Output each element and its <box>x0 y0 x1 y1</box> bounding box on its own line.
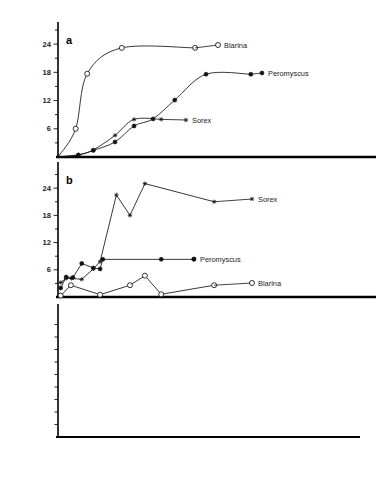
curve-blarina <box>61 276 214 296</box>
leader-line-sorex <box>214 199 252 202</box>
panel-a-series-peromyscus <box>58 72 253 157</box>
datapoint-sorex <box>143 181 147 185</box>
legend-marker-sorex <box>250 197 254 201</box>
panel-a-label-peromyscus: Peromyscus <box>251 69 309 78</box>
series-label-sorex: Sorex <box>258 195 278 204</box>
panel-b-y-tick-label: 12 <box>43 238 51 247</box>
curve-peromyscus <box>58 72 251 157</box>
datapoint-sorex <box>128 213 132 217</box>
panel-a-y-tick-label: 24 <box>43 40 52 49</box>
panel-b-label-blarina: Blarina <box>214 279 282 288</box>
panel-a-letter: a <box>66 34 73 46</box>
legend-marker-sorex <box>184 118 188 122</box>
datapoint-peromyscus <box>113 140 117 144</box>
datapoint-peromyscus <box>173 98 177 102</box>
datapoint-blarina <box>85 71 90 76</box>
panel-a-y-tick-label: 12 <box>43 96 51 105</box>
leader-line-blarina <box>214 283 252 285</box>
datapoint-peromyscus <box>101 257 105 261</box>
series-label-sorex: Sorex <box>192 116 212 125</box>
curve-sorex <box>61 184 214 283</box>
series-label-peromyscus: Peromyscus <box>200 255 241 264</box>
legend-marker-peromyscus <box>260 71 264 75</box>
series-label-peromyscus: Peromyscus <box>268 69 309 78</box>
datapoint-peromyscus <box>91 266 95 270</box>
panel-a-series-sorex <box>58 117 163 157</box>
datapoint-sorex <box>114 193 118 197</box>
datapoint-sorex <box>76 152 80 156</box>
panel-a-y-tick-label: 18 <box>43 68 51 77</box>
panel-a-y-tick-label: 6 <box>47 124 51 133</box>
panel-b-y-tick-label: 24 <box>43 184 52 193</box>
series-label-blarina: Blarina <box>224 41 248 50</box>
legend-marker-blarina <box>250 281 255 286</box>
datapoint-peromyscus <box>132 124 136 128</box>
datapoint-blarina <box>68 283 73 288</box>
datapoint-blarina <box>58 293 63 298</box>
panel-b-series-blarina <box>58 273 216 298</box>
datapoint-blarina <box>73 126 78 131</box>
datapoint-blarina <box>142 273 147 278</box>
datapoint-peromyscus <box>64 275 68 279</box>
datapoint-peromyscus <box>80 261 84 265</box>
datapoint-blarina <box>127 283 132 288</box>
panel-b-y-tick-label: 6 <box>47 265 51 274</box>
datapoint-peromyscus <box>59 286 63 290</box>
legend-marker-blarina <box>216 43 221 48</box>
leader-line-blarina <box>195 45 218 48</box>
panel-b-y-tick-label: 18 <box>43 211 51 220</box>
series-label-blarina: Blarina <box>258 279 282 288</box>
datapoint-peromyscus <box>204 72 208 76</box>
datapoint-sorex <box>113 133 117 137</box>
panel-c <box>55 304 361 437</box>
datapoint-peromyscus <box>98 267 102 271</box>
panel-a-label-sorex: Sorex <box>161 116 211 125</box>
datapoint-blarina <box>98 292 103 297</box>
datapoint-blarina <box>159 292 164 297</box>
datapoint-sorex <box>80 277 84 281</box>
legend-marker-peromyscus <box>192 257 196 261</box>
datapoint-sorex <box>132 117 136 121</box>
panel-a-label-blarina: Blarina <box>195 41 248 50</box>
panel-a: 6121824BlarinaPeromyscusSorexa <box>43 22 376 157</box>
panel-b-series-sorex <box>59 181 217 284</box>
panel-b-letter: b <box>66 174 73 186</box>
panel-b: 6121824SorexPeromyscusBlarinab <box>43 162 376 298</box>
figure-container: 6121824BlarinaPeromyscusSorexa6121824Sor… <box>0 0 386 478</box>
datapoint-peromyscus <box>71 275 75 279</box>
datapoint-peromyscus <box>159 257 163 261</box>
panel-b-label-sorex: Sorex <box>214 195 277 204</box>
datapoint-blarina <box>119 45 124 50</box>
multi-panel-chart: 6121824BlarinaPeromyscusSorexa6121824Sor… <box>0 0 386 478</box>
datapoint-sorex <box>91 148 95 152</box>
panel-b-label-peromyscus: Peromyscus <box>192 255 241 264</box>
leader-line-sorex <box>161 119 186 120</box>
curve-sorex <box>58 118 161 157</box>
